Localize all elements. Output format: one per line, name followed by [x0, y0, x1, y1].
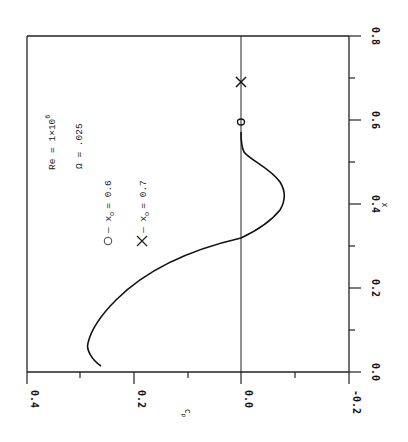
- y-tick-label: 0.2: [136, 390, 147, 408]
- x-axis-label: x: [380, 203, 389, 208]
- svg-text:— xo= 0.6: — xo= 0.6: [103, 180, 116, 234]
- x-tick-label: 0.4: [370, 195, 381, 213]
- legend-cross-entry: — xo= 0.7: [137, 180, 151, 246]
- legend-circle-prefix: — x: [103, 216, 114, 234]
- y-axis-label: cp: [180, 409, 192, 418]
- y-tick-label: 0.4: [29, 390, 40, 408]
- plot-frame: [27, 36, 349, 372]
- omega-text: Ω = .025: [74, 123, 85, 169]
- y-tick-labels: 0.4 0.2 0.0 -0.2: [29, 390, 362, 414]
- legend-circle-sub: o: [108, 212, 116, 216]
- legend-cross-suffix: = 0.7: [138, 180, 149, 209]
- x-tick-label: 0.6: [370, 111, 381, 129]
- cp-curve: [88, 132, 285, 366]
- reynolds-annotation: Re = 1×106: [44, 114, 58, 170]
- re-superscript: 6: [44, 114, 52, 118]
- omega-annotation: Ω = .025: [74, 123, 85, 169]
- x-tick-label: 0.2: [370, 279, 381, 297]
- legend-cross-sub: o: [143, 212, 151, 216]
- legend-circle-entry: — xo= 0.6: [103, 180, 116, 245]
- legend-circle-suffix: = 0.6: [103, 180, 114, 209]
- x-tick-labels: 0.8 0.6 0.4 0.2 0.0: [370, 27, 381, 381]
- svg-text:cp: cp: [180, 409, 192, 418]
- y-axis-label-sub: p: [180, 414, 188, 418]
- cp-distribution-chart: 0.8 0.6 0.4 0.2 0.0 x 0.4 0.2 0.0 -0.2 c…: [0, 0, 408, 442]
- y-tick-label: -0.2: [351, 390, 362, 414]
- y-axis-ticks: [27, 372, 349, 384]
- re-text: Re = 1×10: [47, 118, 58, 170]
- x-tick-label: 0.0: [370, 363, 381, 381]
- y-tick-label: 0.0: [243, 390, 254, 408]
- x-axis-ticks: [349, 36, 361, 372]
- x-tick-label: 0.8: [370, 27, 381, 45]
- legend-circle-icon: [104, 237, 112, 245]
- svg-text:Re = 1×106: Re = 1×106: [44, 114, 58, 170]
- svg-text:— xo= 0.7: — xo= 0.7: [138, 180, 151, 234]
- legend-cross-icon: [137, 236, 147, 246]
- legend-cross-prefix: — x: [138, 216, 149, 234]
